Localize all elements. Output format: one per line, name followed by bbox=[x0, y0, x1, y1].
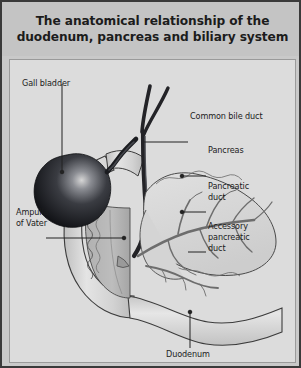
figure-title-band: The anatomical relationship of the duode… bbox=[2, 2, 301, 56]
label-accessory-pancreatic-duct: Accessory pancreatic duct bbox=[208, 221, 250, 253]
figure-container: The anatomical relationship of the duode… bbox=[0, 0, 301, 368]
figure-title: The anatomical relationship of the duode… bbox=[16, 13, 289, 45]
anatomy-illustration bbox=[10, 60, 295, 362]
illustration-panel: Gall bladder Common bile duct Pancreas P… bbox=[9, 59, 296, 363]
label-pancreatic-duct: Pancreatic duct bbox=[208, 181, 249, 203]
label-duodenum: Duodenum bbox=[166, 349, 210, 360]
label-ampulla-of-vater: Ampulla of Vater bbox=[16, 207, 48, 229]
label-pancreas: Pancreas bbox=[208, 145, 244, 156]
label-gall-bladder: Gall bladder bbox=[22, 78, 70, 89]
label-common-bile-duct: Common bile duct bbox=[190, 111, 263, 122]
